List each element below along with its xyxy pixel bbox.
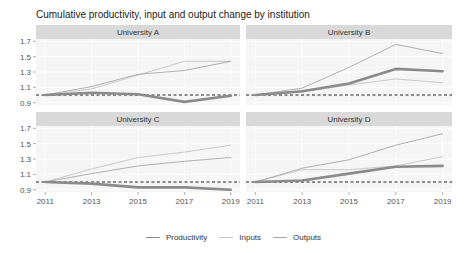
- legend-item-inputs: Inputs: [219, 233, 261, 242]
- legend-item-productivity: Productivity: [146, 233, 207, 242]
- y-tick-label: 1.1: [20, 83, 32, 92]
- legend-key-outputs-icon: [273, 237, 287, 238]
- y-tick-label: 1.3: [20, 155, 32, 164]
- y-tick-label: 1.7: [20, 37, 32, 46]
- facet-panel: University C0.91.11.31.51.72011201320152…: [20, 112, 240, 206]
- legend-label: Productivity: [166, 233, 207, 242]
- y-tick-label: 0.9: [20, 186, 32, 195]
- x-tick-label: 2011: [37, 197, 55, 206]
- legend-label: Outputs: [293, 233, 321, 242]
- x-tick-label: 2015: [340, 197, 358, 206]
- y-tick-label: 1.1: [20, 170, 32, 179]
- y-tick-label: 1.5: [20, 140, 32, 149]
- facet-panel: University D20112013201520172019: [246, 112, 452, 206]
- x-tick-label: 2013: [83, 197, 101, 206]
- legend-label: Inputs: [239, 233, 261, 242]
- facet-strip-label: University D: [327, 115, 370, 124]
- x-tick-label: 2013: [293, 197, 311, 206]
- facet-strip-label: University B: [328, 28, 371, 37]
- x-tick-label: 2017: [387, 197, 405, 206]
- legend-key-productivity-icon: [146, 237, 160, 238]
- x-tick-label: 2019: [434, 197, 452, 206]
- facet-strip-label: University A: [117, 28, 160, 37]
- legend-key-inputs-icon: [219, 237, 233, 238]
- facet-panel: University B: [246, 25, 452, 105]
- legend-item-outputs: Outputs: [273, 233, 321, 242]
- y-tick-label: 1.3: [20, 68, 32, 77]
- y-tick-label: 0.9: [20, 99, 32, 108]
- y-tick-label: 1.7: [20, 124, 32, 133]
- facet-strip-label: University C: [116, 115, 159, 124]
- legend: Productivity Inputs Outputs: [0, 230, 467, 244]
- x-tick-label: 2015: [129, 197, 147, 206]
- facet-plot-area: University A0.91.11.31.51.7University BU…: [0, 0, 467, 253]
- x-tick-label: 2011: [247, 197, 265, 206]
- x-tick-label: 2017: [175, 197, 193, 206]
- facet-panel: University A0.91.11.31.51.7: [20, 25, 240, 108]
- x-tick-label: 2019: [222, 197, 240, 206]
- y-tick-label: 1.5: [20, 53, 32, 62]
